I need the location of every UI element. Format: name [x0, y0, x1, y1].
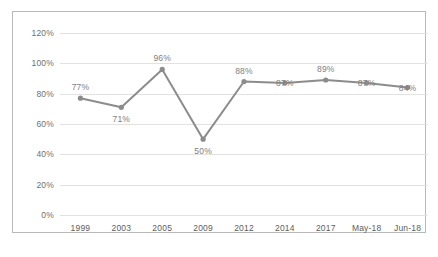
data-point-marker [78, 96, 83, 101]
x-axis-tick-label: 2014 [275, 223, 295, 233]
data-point-label: 89% [317, 64, 335, 74]
data-point-label: 96% [153, 53, 171, 63]
data-point-label: 87% [276, 78, 294, 88]
chart-page: 0%20%40%60%80%100%120% 19992003200520092… [0, 0, 438, 257]
x-axis-tick-label: 2009 [193, 223, 213, 233]
data-point-label: 50% [194, 146, 212, 156]
data-point-label: 77% [72, 82, 90, 92]
y-axis-tick-label: 120% [31, 28, 54, 38]
data-point-label: 87% [358, 78, 376, 88]
y-axis-tick-label: 0% [41, 210, 54, 220]
x-axis-tick-label: 2005 [152, 223, 172, 233]
data-point-label: 88% [235, 66, 253, 76]
chart-frame: 0%20%40%60%80%100%120% 19992003200520092… [12, 11, 426, 233]
x-axis-tick-label: 2012 [234, 223, 254, 233]
y-axis-tick-label: 100% [31, 58, 54, 68]
x-axis-tick-label: 1999 [71, 223, 91, 233]
x-axis-tick-label: 2003 [111, 223, 131, 233]
data-point-marker [323, 77, 328, 82]
y-axis-tick-label: 20% [36, 180, 54, 190]
data-point-label: 84% [399, 83, 417, 93]
x-axis-tick-label: May-18 [352, 223, 382, 233]
data-point-marker [119, 105, 124, 110]
gridline [60, 215, 428, 216]
data-point-label: 71% [113, 114, 131, 124]
y-axis-tick-label: 60% [36, 119, 54, 129]
y-axis-tick-label: 40% [36, 149, 54, 159]
data-point-marker [201, 137, 206, 142]
x-axis-tick-label: 2017 [316, 223, 336, 233]
plot-area: 0%20%40%60%80%100%120% 19992003200520092… [60, 33, 428, 215]
data-point-marker [241, 79, 246, 84]
y-axis-tick-label: 80% [36, 89, 54, 99]
x-axis-tick-label: Jun-18 [394, 223, 421, 233]
data-point-marker [160, 67, 165, 72]
